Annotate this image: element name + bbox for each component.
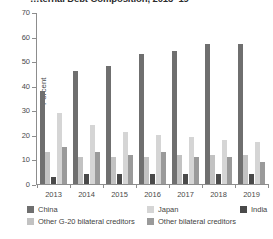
bar (144, 157, 149, 184)
y-tick-label-10: 10 (22, 157, 30, 165)
chart-legend: China Japan India Other G-20 bilateral c… (27, 205, 273, 229)
bar-group-2017: 2017 (169, 13, 202, 184)
legend-item-china: China (27, 205, 147, 214)
bar (111, 157, 116, 184)
y-tick-label-60: 60 (22, 34, 30, 42)
bar (238, 44, 243, 184)
legend-label-other-g20: Other G-20 bilateral creditors (38, 217, 135, 226)
bar (84, 174, 89, 184)
bar-group-2019: 2019 (235, 13, 268, 184)
bar (51, 177, 56, 184)
bar (95, 152, 100, 184)
legend-swatch-china (27, 206, 34, 213)
x-tick-2014 (103, 184, 104, 188)
bars-2014 (70, 13, 103, 184)
bar-group-2016: 2016 (136, 13, 169, 184)
y-tick-0 (32, 185, 36, 186)
bar (227, 157, 232, 184)
legend-row-2: Other G-20 bilateral creditors Other bil… (27, 217, 273, 226)
legend-swatch-other-bilateral (147, 218, 154, 225)
bar (205, 44, 210, 184)
x-tick-label-2016: 2016 (144, 190, 161, 199)
bar (183, 174, 188, 184)
legend-label-japan: Japan (158, 205, 178, 214)
y-tick-label-50: 50 (22, 58, 30, 66)
chart-container: …ternal Debt Composition, 2013–19 Percen… (0, 0, 273, 239)
y-tick-50 (32, 62, 36, 63)
x-tick-2018 (235, 184, 236, 188)
legend-swatch-other-g20 (27, 218, 34, 225)
bar (177, 155, 182, 184)
x-tick-2017 (202, 184, 203, 188)
legend-item-other-bilateral: Other bilateral creditors (147, 217, 236, 226)
x-tick-label-2013: 2013 (45, 190, 62, 199)
bar-group-2014: 2014 (70, 13, 103, 184)
bar (194, 157, 199, 184)
bars-2015 (103, 13, 136, 184)
legend-label-india: India (251, 205, 267, 214)
y-tick-label-70: 70 (22, 9, 30, 17)
x-tick-2013 (70, 184, 71, 188)
x-tick-2015 (136, 184, 137, 188)
bar (117, 174, 122, 184)
bar (73, 71, 78, 184)
y-tick-40 (32, 87, 36, 88)
bar (106, 66, 111, 184)
legend-label-china: China (38, 205, 58, 214)
bar (78, 157, 83, 184)
y-tick-label-40: 40 (22, 83, 30, 91)
bar (45, 152, 50, 184)
bar (249, 174, 254, 184)
bar (150, 174, 155, 184)
y-tick-10 (32, 160, 36, 161)
y-tick-20 (32, 136, 36, 137)
bar (161, 152, 166, 184)
bar-group-2018: 2018 (202, 13, 235, 184)
bar-group-2013: 2013 (37, 13, 70, 184)
x-tick-2016 (169, 184, 170, 188)
y-tick-label-20: 20 (22, 132, 30, 140)
bar (255, 142, 260, 184)
bar (128, 155, 133, 184)
bar (123, 132, 128, 184)
x-tick-label-2017: 2017 (177, 190, 194, 199)
y-tick-label-0: 0 (26, 181, 30, 189)
bar (189, 137, 194, 184)
y-tick-label-30: 30 (22, 108, 30, 116)
bar (216, 174, 221, 184)
legend-item-other-g20: Other G-20 bilateral creditors (27, 217, 147, 226)
bars-2013 (37, 13, 70, 184)
bar (156, 135, 161, 184)
plot-area: Percent 010203040506070 2013201420152016… (36, 13, 268, 185)
legend-swatch-india (240, 206, 247, 213)
legend-label-other-bilateral: Other bilateral creditors (158, 217, 236, 226)
bar-groups: 2013201420152016201720182019 (37, 13, 268, 184)
bar (210, 155, 215, 184)
bar (90, 125, 95, 184)
x-tick-label-2019: 2019 (243, 190, 260, 199)
x-tick-label-2015: 2015 (111, 190, 128, 199)
bar (222, 140, 227, 184)
bar (40, 91, 45, 184)
bar (260, 162, 265, 184)
chart-title: …ternal Debt Composition, 2013–19 (30, 0, 189, 4)
x-tick-2019 (268, 184, 269, 188)
legend-item-japan: Japan (147, 205, 240, 214)
bars-2019 (235, 13, 268, 184)
bars-2016 (136, 13, 169, 184)
x-tick-label-2014: 2014 (78, 190, 95, 199)
bar (243, 155, 248, 184)
legend-item-india: India (240, 205, 267, 214)
y-tick-30 (32, 111, 36, 112)
y-tick-70 (32, 13, 36, 14)
bars-2018 (202, 13, 235, 184)
x-tick-label-2018: 2018 (210, 190, 227, 199)
bar-group-2015: 2015 (103, 13, 136, 184)
legend-row-1: China Japan India (27, 205, 273, 214)
x-tick-edge (37, 184, 38, 188)
bar (139, 54, 144, 184)
bars-2017 (169, 13, 202, 184)
bar (62, 147, 67, 184)
bar (57, 113, 62, 184)
y-tick-60 (32, 38, 36, 39)
